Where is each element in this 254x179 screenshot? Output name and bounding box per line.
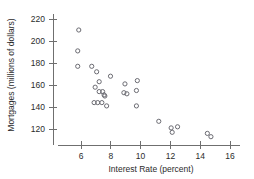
data-point-marker (134, 104, 138, 108)
data-point-marker (175, 125, 179, 129)
data-point-marker (157, 119, 161, 123)
data-point-marker (76, 64, 80, 68)
data-point-marker (135, 79, 139, 83)
data-point-marker (97, 80, 101, 84)
x-axis: 6810121416 (58, 141, 240, 161)
x-axis-title: Interest Rate (percent) (108, 164, 193, 174)
x-tick-label: 14 (195, 151, 205, 161)
data-point-marker (123, 82, 127, 86)
scatter-plot-figure: 120140160180200220 6810121416 Interest R… (0, 0, 254, 179)
x-tick-label: 16 (225, 151, 235, 161)
data-point-marker (205, 131, 209, 135)
plot-canvas: 120140160180200220 6810121416 Interest R… (0, 0, 254, 179)
data-point-marker (93, 85, 97, 89)
data-point-marker (76, 49, 80, 53)
y-axis-title: Mortgages (millions of dollars) (6, 18, 16, 132)
x-tick-label: 6 (79, 151, 84, 161)
x-tick-label: 8 (108, 151, 113, 161)
y-axis: 120140160180200220 (31, 14, 57, 145)
y-tick-label: 200 (31, 36, 45, 46)
y-tick-label: 140 (31, 102, 45, 112)
data-point-marker (105, 104, 109, 108)
data-point-marker (108, 74, 112, 78)
data-points-layer (76, 28, 213, 139)
data-point-marker (77, 28, 81, 32)
y-tick-label: 120 (31, 124, 45, 134)
y-tick-label: 180 (31, 58, 45, 68)
data-point-marker (134, 88, 138, 92)
y-tick-label: 160 (31, 80, 45, 90)
y-tick-label: 220 (31, 14, 45, 24)
x-tick-label: 10 (136, 151, 146, 161)
data-point-marker (209, 135, 213, 139)
data-point-marker (90, 64, 94, 68)
data-point-marker (100, 101, 104, 105)
x-tick-label: 12 (166, 151, 176, 161)
data-point-marker (170, 130, 174, 134)
data-point-marker (95, 70, 99, 74)
data-point-marker (169, 126, 173, 130)
